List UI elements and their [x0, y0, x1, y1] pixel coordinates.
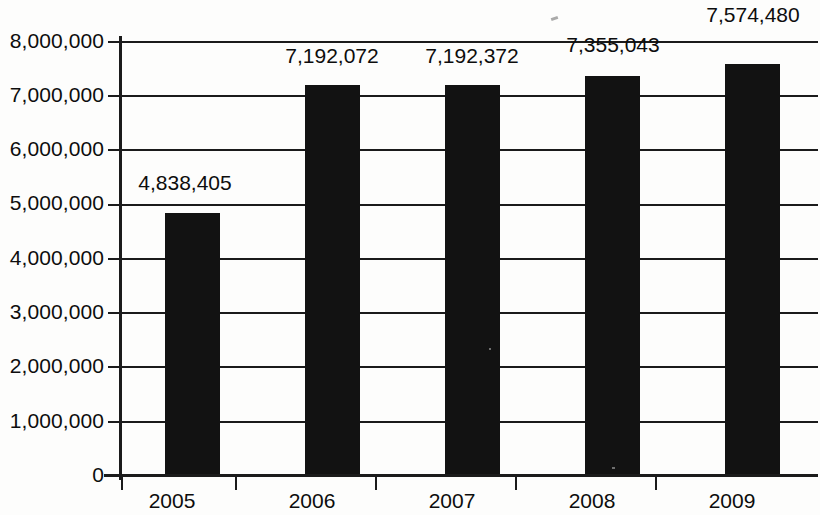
bar-2006[interactable]	[305, 85, 360, 475]
x-axis-tick	[655, 475, 657, 490]
y-axis-label-3000000: 3,000,000	[0, 300, 104, 324]
y-axis-label-text: 7,000,000	[0, 83, 104, 107]
y-axis-label-text: 2,000,000	[0, 354, 104, 378]
bars-group	[121, 41, 818, 475]
bar-2008[interactable]	[585, 76, 640, 475]
scan-speck	[489, 348, 491, 350]
x-axis-label-2007: 2007	[402, 489, 502, 513]
bar-chart: 8,000,000 7,000,000 6,000,000 5,000,000 …	[0, 0, 820, 515]
y-axis-label-4000000: 4,000,000	[0, 246, 104, 270]
scan-speck	[551, 16, 559, 21]
bar-2005[interactable]	[165, 213, 220, 475]
y-axis-label-5000000: 5,000,000	[0, 191, 104, 215]
y-axis-label-6000000: 6,000,000	[0, 137, 104, 161]
y-axis-label-text: 3,000,000	[0, 300, 104, 324]
y-axis-label-text: 0	[0, 463, 104, 487]
bar-value-label-2008: 7,355,043	[543, 33, 683, 57]
bar-value-label-2005: 4,838,405	[115, 171, 255, 195]
bar-2007[interactable]	[445, 85, 500, 475]
y-axis-label-text: 8,000,000	[0, 29, 104, 53]
y-axis-label-text: 1,000,000	[0, 409, 104, 433]
bar-value-label-2009: 7,574,480	[683, 3, 820, 27]
x-axis-tick	[375, 475, 377, 490]
y-axis-label-1000000: 1,000,000	[0, 409, 104, 433]
scan-speck	[612, 467, 615, 469]
bar-value-label-2007: 7,192,372	[402, 44, 542, 68]
bar-2009[interactable]	[725, 64, 780, 475]
x-axis-tick	[515, 475, 517, 490]
y-axis-label-text: 5,000,000	[0, 191, 104, 215]
y-axis-label-text: 4,000,000	[0, 246, 104, 270]
x-axis-label-2009: 2009	[682, 489, 782, 513]
y-axis-label-0: 0	[0, 463, 104, 487]
y-axis-label-2000000: 2,000,000	[0, 354, 104, 378]
y-axis-label-text: 6,000,000	[0, 137, 104, 161]
y-axis-label-8000000: 8,000,000	[0, 29, 104, 53]
x-axis-line	[104, 474, 818, 477]
bar-value-label-2006: 7,192,072	[262, 44, 402, 68]
x-axis-label-2006: 2006	[262, 489, 362, 513]
x-axis-tick	[235, 475, 237, 490]
x-axis-label-2008: 2008	[542, 489, 642, 513]
y-axis-label-7000000: 7,000,000	[0, 83, 104, 107]
x-axis-tick	[121, 475, 123, 490]
y-axis-line	[119, 36, 122, 480]
x-axis-label-2005: 2005	[122, 489, 222, 513]
